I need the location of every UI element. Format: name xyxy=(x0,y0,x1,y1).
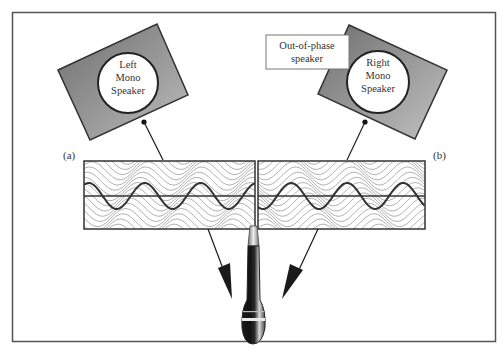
right-speaker-label-2: Mono xyxy=(365,70,390,81)
panel-label-a: (a) xyxy=(63,149,76,162)
right-speaker-label-1: Right xyxy=(366,57,389,68)
left-speaker-label-1: Left xyxy=(119,59,137,70)
panel-label-b: (b) xyxy=(433,149,446,162)
arrow-right-to-mic xyxy=(297,229,318,274)
left-speaker: Left Mono Speaker xyxy=(58,24,188,160)
out-of-phase-callout: Out-of-phase speaker xyxy=(266,35,349,69)
phase-cancellation-diagram: Left Mono Speaker Right Mono Speaker Out… xyxy=(0,0,504,361)
callout-line-2: speaker xyxy=(291,53,324,64)
right-speaker-label-3: Speaker xyxy=(361,83,395,94)
microphone-icon xyxy=(242,226,265,344)
left-speaker-label-3: Speaker xyxy=(111,85,145,96)
callout-line-1: Out-of-phase xyxy=(279,40,335,51)
left-speaker-label-2: Mono xyxy=(115,72,140,83)
